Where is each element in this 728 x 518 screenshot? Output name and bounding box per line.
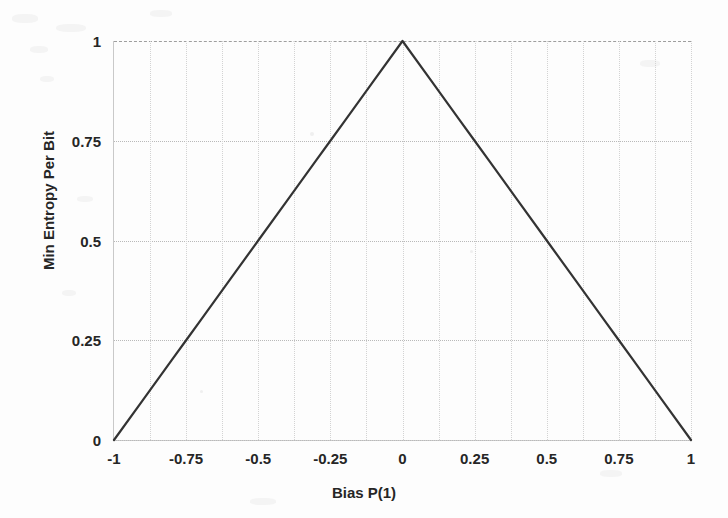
gridline-horizontal: [114, 440, 691, 441]
figure-canvas: 00.250.50.751 -1-0.75-0.5-0.2500.250.50.…: [0, 0, 728, 518]
x-tick-label: 0.75: [604, 450, 633, 467]
x-tick-label: 0: [398, 450, 406, 467]
data-curve: [114, 41, 691, 440]
scan-artifact: [40, 76, 54, 82]
x-tick-label: -0.5: [245, 450, 271, 467]
x-axis-title: Bias P(1): [0, 484, 728, 501]
y-tick-label: 0: [93, 432, 101, 449]
y-axis-title: Min Entropy Per Bit: [40, 91, 57, 311]
x-tick-label: -0.75: [169, 450, 203, 467]
y-tick-label: 0.25: [72, 332, 101, 349]
x-tick-label: -0.25: [313, 450, 347, 467]
x-tick-label: -1: [107, 450, 120, 467]
scan-artifact: [62, 290, 76, 296]
y-tick-label: 1: [93, 33, 101, 50]
x-tick-label: 1: [687, 450, 695, 467]
scan-artifact: [150, 10, 172, 17]
y-tick-label: 0.75: [72, 133, 101, 150]
scan-artifact: [77, 196, 93, 202]
scan-artifact: [30, 46, 48, 53]
x-tick-label: 0.5: [536, 450, 557, 467]
gridline-vertical: [691, 41, 692, 440]
y-tick-label: 0.5: [80, 233, 101, 250]
scan-artifact: [56, 24, 86, 32]
scan-artifact: [12, 14, 38, 23]
x-tick-label: 0.25: [460, 450, 489, 467]
scan-artifact: [600, 470, 622, 477]
plot-area: 00.250.50.751 -1-0.75-0.5-0.2500.250.50.…: [113, 41, 691, 441]
